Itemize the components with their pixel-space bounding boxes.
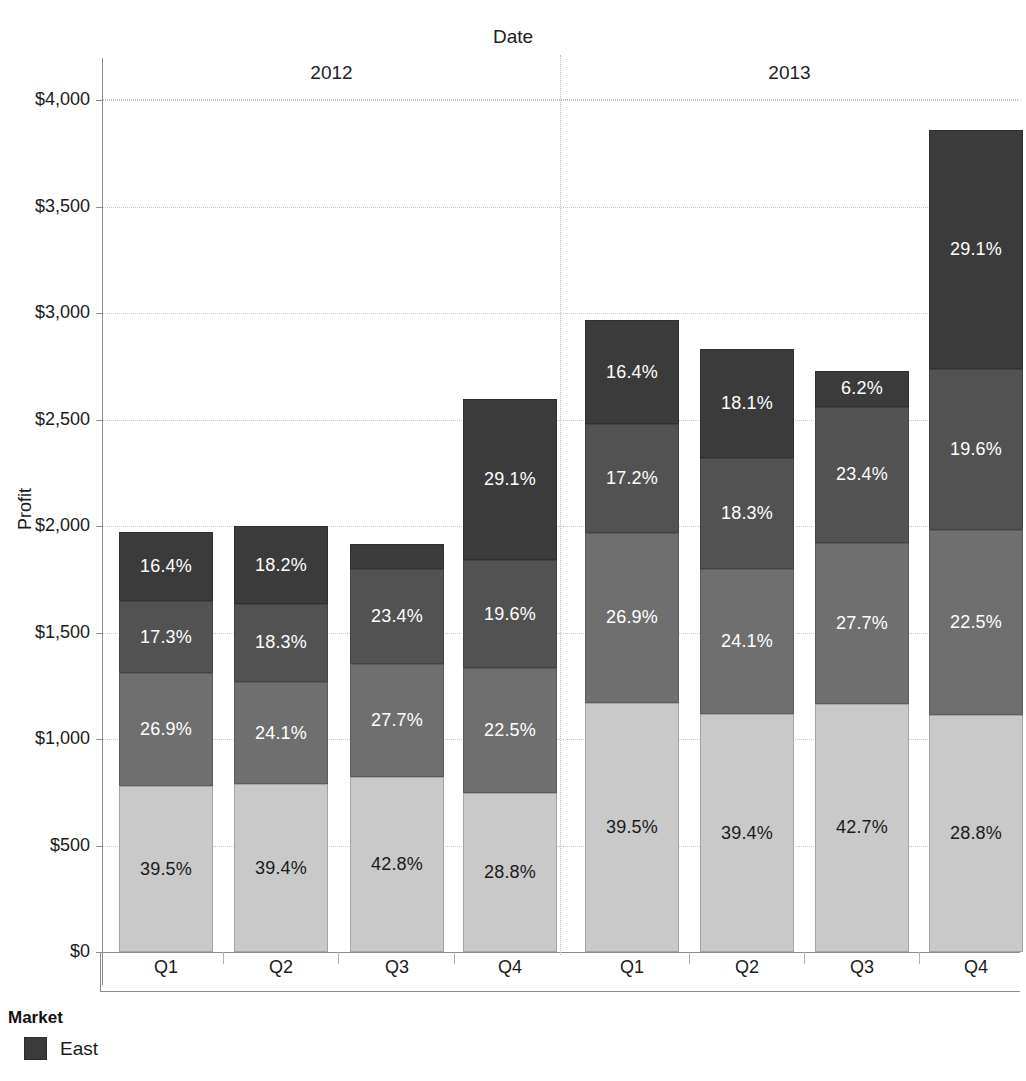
segment-percent-label: 39.5% [140, 859, 192, 880]
x-tick-label-Q3: Q3 [338, 957, 456, 978]
bar-segment-east[interactable] [350, 544, 444, 569]
bar-2013-Q1[interactable]: 39.5%26.9%17.2%16.4% [585, 320, 679, 952]
bar-segment-central[interactable]: 22.5% [463, 668, 557, 792]
bar-2012-Q2[interactable]: 39.4%24.1%18.3%18.2% [234, 526, 328, 952]
bar-segment-south[interactable]: 39.5% [119, 786, 213, 952]
segment-percent-label: 18.1% [721, 393, 773, 414]
segment-percent-label: 24.1% [255, 723, 307, 744]
legend-item[interactable]: East [8, 1037, 328, 1060]
date-axis-title: Date [0, 26, 1026, 48]
x-tick-label-Q2: Q2 [688, 957, 806, 978]
bar-segment-central[interactable]: 24.1% [700, 569, 794, 715]
segment-percent-label: 26.9% [140, 719, 192, 740]
bar-segment-west[interactable]: 19.6% [463, 560, 557, 668]
segment-percent-label: 6.2% [841, 378, 883, 399]
bar-2012-Q3[interactable]: 42.8%27.7%23.4% [350, 544, 444, 952]
x-axis-left-cap [100, 952, 101, 991]
y-tick-label: $2,500 [0, 409, 90, 430]
segment-percent-label: 39.4% [255, 858, 307, 879]
bar-segment-central[interactable]: 24.1% [234, 682, 328, 785]
bar-segment-east[interactable]: 18.1% [700, 349, 794, 458]
x-tick-label-Q4: Q4 [451, 957, 569, 978]
y-axis-tick [96, 952, 103, 953]
bar-segment-east[interactable]: 16.4% [585, 320, 679, 424]
segment-percent-label: 19.6% [950, 439, 1002, 460]
bar-segment-south[interactable]: 28.8% [463, 793, 557, 952]
segment-percent-label: 18.3% [255, 632, 307, 653]
segment-percent-label: 16.4% [140, 556, 192, 577]
bar-2012-Q1[interactable]: 39.5%26.9%17.3%16.4% [119, 532, 213, 952]
bar-2013-Q2[interactable]: 39.4%24.1%18.3%18.1% [700, 348, 794, 952]
bar-segment-west[interactable]: 18.3% [700, 458, 794, 569]
segment-percent-label: 18.2% [255, 555, 307, 576]
bar-segment-south[interactable]: 42.8% [350, 777, 444, 952]
segment-percent-label: 42.8% [371, 854, 423, 875]
bar-segment-central[interactable]: 26.9% [119, 673, 213, 786]
x-tick-label-Q2: Q2 [222, 957, 340, 978]
plot-area: 39.5%26.9%17.3%16.4%39.4%24.1%18.3%18.2%… [103, 100, 1018, 952]
y-axis-tick [96, 313, 103, 314]
y-tick-label: $1,500 [0, 622, 90, 643]
bar-segment-west[interactable]: 17.3% [119, 601, 213, 674]
bar-segment-west[interactable]: 19.6% [929, 369, 1023, 530]
bar-segment-south[interactable]: 28.8% [929, 715, 1023, 952]
segment-percent-label: 22.5% [484, 720, 536, 741]
segment-percent-label: 27.7% [836, 613, 888, 634]
y-tick-label: $500 [0, 835, 90, 856]
y-tick-label: $3,000 [0, 302, 90, 323]
x-axis-bottom-rule [100, 991, 1020, 992]
bar-segment-east[interactable]: 29.1% [463, 399, 557, 560]
year-divider-line [560, 55, 561, 955]
bar-segment-west[interactable]: 23.4% [815, 407, 909, 543]
bar-segment-central[interactable]: 26.9% [585, 533, 679, 703]
segment-percent-label: 19.6% [484, 604, 536, 625]
x-tick-label-Q4: Q4 [917, 957, 1026, 978]
legend: Market East [8, 1008, 328, 1060]
bar-segment-south[interactable]: 39.4% [700, 714, 794, 952]
bar-segment-east[interactable]: 29.1% [929, 130, 1023, 369]
x-tick-label-Q1: Q1 [107, 957, 225, 978]
y-tick-label: $1,000 [0, 728, 90, 749]
legend-title: Market [8, 1008, 328, 1028]
segment-percent-label: 39.5% [606, 817, 658, 838]
bar-segment-central[interactable]: 27.7% [815, 543, 909, 704]
bar-segment-central[interactable]: 27.7% [350, 664, 444, 777]
y-axis-tick [96, 526, 103, 527]
segment-percent-label: 17.2% [606, 468, 658, 489]
bar-segment-east[interactable]: 6.2% [815, 371, 909, 407]
bar-segment-west[interactable]: 23.4% [350, 569, 444, 664]
bar-segment-south[interactable]: 39.5% [585, 703, 679, 952]
segment-percent-label: 27.7% [371, 710, 423, 731]
x-tick-label-Q3: Q3 [803, 957, 921, 978]
bar-segment-south[interactable]: 39.4% [234, 784, 328, 952]
segment-percent-label: 29.1% [950, 239, 1002, 260]
y-axis-tick [96, 420, 103, 421]
bar-segment-south[interactable]: 42.7% [815, 704, 909, 952]
y-axis-tick [96, 846, 103, 847]
segment-percent-label: 17.3% [140, 627, 192, 648]
year-label-2013: 2013 [561, 62, 1018, 84]
bar-segment-east[interactable]: 18.2% [234, 526, 328, 603]
segment-percent-label: 28.8% [484, 862, 536, 883]
segment-percent-label: 28.8% [950, 823, 1002, 844]
y-axis-tick [96, 739, 103, 740]
y-tick-label: $2,000 [0, 515, 90, 536]
bar-segment-west[interactable]: 18.3% [234, 604, 328, 682]
bar-segment-east[interactable]: 16.4% [119, 532, 213, 601]
x-tick-label-Q1: Q1 [573, 957, 691, 978]
segment-percent-label: 26.9% [606, 607, 658, 628]
segment-percent-label: 29.1% [484, 469, 536, 490]
y-axis-tick [96, 100, 103, 101]
segment-percent-label: 18.3% [721, 503, 773, 524]
y-axis-tick [96, 633, 103, 634]
bar-2013-Q4[interactable]: 28.8%22.5%19.6%29.1% [929, 130, 1023, 952]
segment-percent-label: 23.4% [371, 606, 423, 627]
bar-2012-Q4[interactable]: 28.8%22.5%19.6%29.1% [463, 399, 557, 952]
segment-percent-label: 24.1% [721, 631, 773, 652]
legend-rows: East [8, 1037, 328, 1060]
segment-percent-label: 16.4% [606, 362, 658, 383]
bar-2013-Q3[interactable]: 42.7%27.7%23.4%6.2% [815, 371, 909, 952]
segment-percent-label: 23.4% [836, 464, 888, 485]
bar-segment-central[interactable]: 22.5% [929, 530, 1023, 715]
bar-segment-west[interactable]: 17.2% [585, 424, 679, 533]
